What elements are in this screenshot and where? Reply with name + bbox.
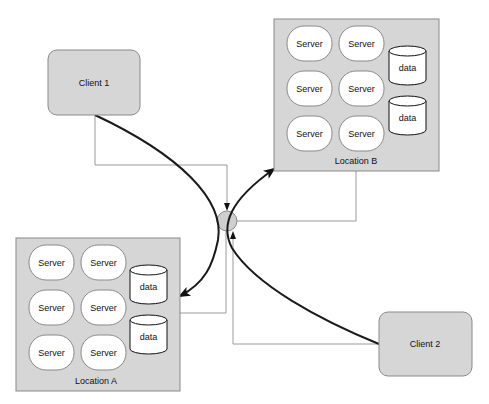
client-2-label: Client 2 [410, 339, 441, 349]
server-node[interactable]: Server [339, 116, 384, 151]
location-a[interactable]: Server Server Server Server Server Serve… [16, 238, 180, 391]
server-node[interactable]: Server [287, 71, 332, 106]
server-node[interactable]: Server [81, 290, 126, 325]
client-2[interactable]: Client 2 [379, 312, 472, 376]
svg-text:Server: Server [90, 303, 117, 313]
svg-text:Server: Server [296, 129, 323, 139]
network-diagram: Client 1 Client 2 Server Server Server S… [0, 0, 489, 404]
svg-text:Server: Server [348, 84, 375, 94]
connector-client2-hub [233, 235, 379, 344]
server-node[interactable]: Server [29, 290, 74, 325]
svg-text:Server: Server [348, 39, 375, 49]
database-icon[interactable]: data [389, 46, 426, 85]
location-b[interactable]: Server Server Server Server Server Serve… [274, 19, 439, 171]
svg-text:data: data [140, 282, 158, 292]
client-1-label: Client 1 [79, 78, 110, 88]
location-b-label: Location B [335, 156, 378, 166]
svg-text:Server: Server [296, 39, 323, 49]
svg-text:Server: Server [38, 303, 65, 313]
server-node[interactable]: Server [339, 26, 384, 61]
svg-text:data: data [140, 332, 158, 342]
connector-hub-locationB [237, 171, 356, 221]
svg-text:Server: Server [90, 348, 117, 358]
server-node[interactable]: Server [287, 26, 332, 61]
server-node[interactable]: Server [29, 335, 74, 370]
location-a-label: Location A [75, 376, 117, 386]
database-icon[interactable]: data [130, 265, 167, 304]
svg-text:Server: Server [90, 258, 117, 268]
client-1[interactable]: Client 1 [48, 50, 140, 115]
server-node[interactable]: Server [339, 71, 384, 106]
database-icon[interactable]: data [130, 315, 167, 354]
server-node[interactable]: Server [81, 335, 126, 370]
server-node[interactable]: Server [81, 245, 126, 280]
svg-text:Server: Server [296, 84, 323, 94]
connector-client1-hub [95, 115, 227, 207]
svg-text:Server: Server [38, 258, 65, 268]
svg-text:data: data [399, 63, 417, 73]
server-node[interactable]: Server [287, 116, 332, 151]
connector-hub-locationA [180, 231, 226, 313]
database-icon[interactable]: data [389, 96, 426, 135]
svg-text:data: data [399, 113, 417, 123]
svg-text:Server: Server [38, 348, 65, 358]
svg-text:Server: Server [348, 129, 375, 139]
server-node[interactable]: Server [29, 245, 74, 280]
